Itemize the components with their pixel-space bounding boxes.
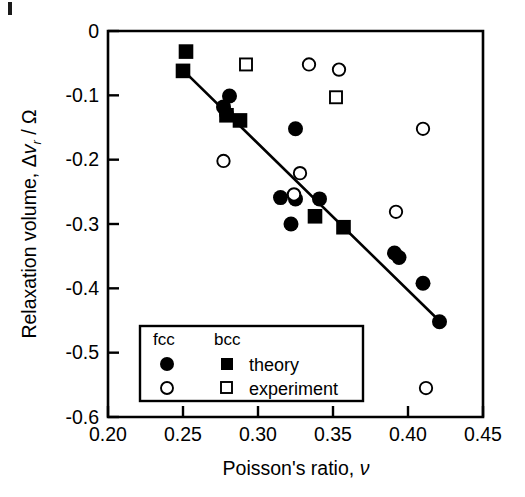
data-point-fcc-theory [416,276,431,291]
data-point-bcc-experiment [330,91,342,103]
legend-marker-fcc-experiment [161,382,173,394]
data-point-fcc-theory [392,250,407,265]
legend-marker-bcc-theory [221,358,233,370]
data-point-fcc-experiment [294,167,306,179]
page-corner-mark [8,2,12,15]
data-point-fcc-experiment [217,155,229,167]
x-tick-label: 0.35 [314,423,352,445]
figure-container: 0-0.1-0.2-0.3-0.4-0.5-0.6 0.200.250.300.… [0,0,525,497]
legend: fcc bcc theory experiment [140,326,363,401]
y-tick-label: -0.2 [65,148,99,170]
data-point-bcc-theory [308,209,323,224]
legend-marker-fcc-theory [160,357,174,371]
data-point-fcc-theory [288,121,303,136]
data-point-bcc-theory [176,64,191,79]
data-point-bcc-theory [233,113,248,128]
x-axis-tick-labels: 0.200.250.300.350.400.45 [89,423,502,445]
y-axis-tick-labels: 0-0.1-0.2-0.3-0.4-0.5-0.6 [65,20,99,428]
x-axis-ticks [108,406,483,417]
data-point-bcc-theory [179,44,194,59]
y-axis-title: Relaxation volume, Δvr / Ω [18,109,44,338]
data-point-fcc-theory [273,190,288,205]
legend-header-bcc: bcc [214,330,241,349]
legend-header-fcc: fcc [153,330,175,349]
legend-label-experiment: experiment [249,379,338,399]
legend-marker-bcc-experiment [221,382,232,393]
data-point-fcc-experiment [417,123,429,135]
x-tick-label: 0.25 [164,423,202,445]
data-point-fcc-theory [284,217,299,232]
data-point-fcc-experiment [303,58,315,70]
data-point-fcc-theory [432,314,447,329]
y-tick-label: -0.1 [65,84,99,106]
y-tick-label: -0.5 [65,341,99,363]
y-tick-label: 0 [88,20,99,42]
y-tick-label: -0.3 [65,213,99,235]
data-point-fcc-experiment [288,188,300,200]
data-point-bcc-experiment [240,58,252,70]
y-axis-ticks [108,31,119,417]
scatter-plot: 0-0.1-0.2-0.3-0.4-0.5-0.6 0.200.250.300.… [0,0,525,497]
data-point-fcc-experiment [390,206,402,218]
data-point-fcc-experiment [420,382,432,394]
data-point-fcc-theory [312,191,327,206]
data-point-bcc-theory [336,220,351,235]
x-axis-title: Poisson's ratio, ν [223,457,370,479]
y-tick-label: -0.4 [65,277,99,299]
x-tick-label: 0.45 [464,423,502,445]
x-tick-label: 0.30 [239,423,277,445]
legend-label-theory: theory [249,355,299,375]
x-tick-label: 0.40 [389,423,427,445]
data-point-fcc-experiment [333,63,345,75]
data-point-bcc-theory [219,108,234,123]
x-tick-label: 0.20 [89,423,127,445]
